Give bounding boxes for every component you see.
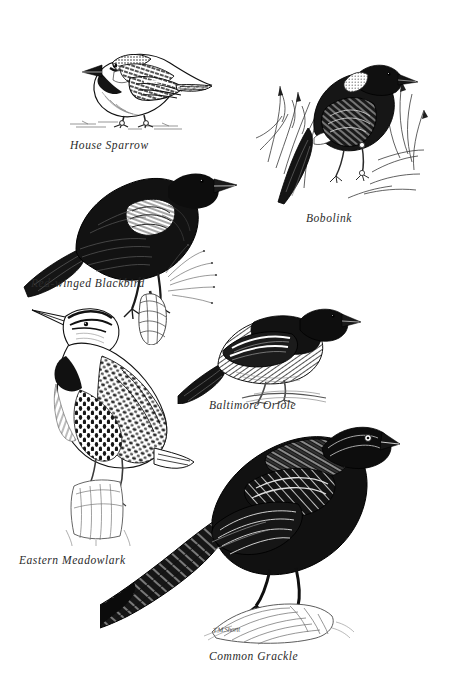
bird-illustration-plate: House Sparrow (0, 0, 451, 700)
house-sparrow-illustration (58, 32, 218, 137)
caption-bobolink: Bobolink (306, 212, 352, 224)
caption-red-winged-blackbird: Red-winged Blackbird (31, 277, 145, 289)
baltimore-oriole-illustration (176, 284, 361, 404)
caption-common-grackle: Common Grackle (209, 650, 298, 662)
common-grackle-illustration (100, 400, 400, 645)
artist-signature: T.M.Shortt (213, 626, 240, 635)
bobolink-illustration (252, 42, 437, 207)
